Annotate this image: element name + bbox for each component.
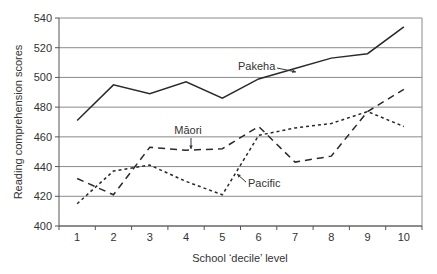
series-line-pakeha	[77, 27, 404, 121]
x-tick-label: 3	[147, 231, 153, 243]
y-tick-label: 420	[34, 190, 52, 202]
x-axis-label: School ‘decile’ level	[192, 252, 288, 264]
series-line-pacific	[77, 112, 404, 204]
x-tick-label: 7	[292, 231, 298, 243]
annotation-label: Māori	[174, 124, 202, 136]
x-tick-label: 5	[219, 231, 225, 243]
arrowhead-icon	[189, 145, 192, 149]
line-chart: 400420440460480500520540 12345678910 Pak…	[0, 0, 437, 274]
y-tick-label: 400	[34, 220, 52, 232]
x-tick-labels: 12345678910	[74, 231, 410, 243]
x-tick-label: 9	[364, 231, 370, 243]
y-tick-label: 440	[34, 161, 52, 173]
x-tick-label: 4	[183, 231, 189, 243]
y-tick-label: 480	[34, 101, 52, 113]
annotations: PakehaMāoriPacific	[174, 60, 296, 189]
axes	[55, 18, 422, 230]
y-axis-label: Reading comprehension scores	[12, 44, 24, 199]
y-tick-label: 460	[34, 131, 52, 143]
x-tick-label: 1	[74, 231, 80, 243]
series-line-mori	[77, 89, 404, 194]
x-tick-label: 10	[398, 231, 410, 243]
arrowhead-icon	[292, 70, 296, 73]
y-tick-labels: 400420440460480500520540	[34, 12, 52, 232]
annotation-label: Pakeha	[238, 60, 276, 72]
y-tick-label: 520	[34, 42, 52, 54]
x-tick-label: 2	[110, 231, 116, 243]
x-tick-label: 8	[328, 231, 334, 243]
annotation-label: Pacific	[248, 177, 281, 189]
y-tick-label: 500	[34, 71, 52, 83]
y-tick-label: 540	[34, 12, 52, 24]
x-tick-label: 6	[256, 231, 262, 243]
